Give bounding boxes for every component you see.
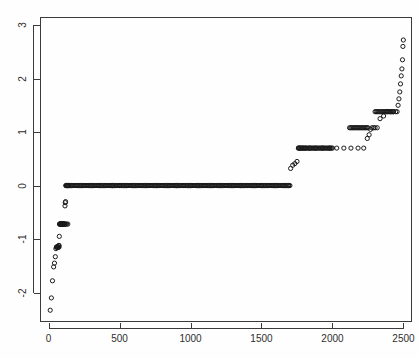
data-point: [50, 279, 54, 283]
y-tick-mark: [34, 239, 40, 240]
data-points-layer: [0, 0, 418, 358]
x-tick-mark: [332, 323, 333, 329]
data-point: [401, 44, 405, 48]
data-point: [398, 82, 402, 86]
data-point: [382, 114, 386, 118]
x-tick-mark: [120, 323, 121, 329]
y-tick-label: 3: [18, 22, 28, 28]
data-point: [362, 146, 366, 150]
data-point: [398, 90, 402, 94]
y-tick-label: 0: [18, 183, 28, 189]
data-point: [57, 234, 61, 238]
y-axis-line: [33, 25, 34, 293]
y-tick-label: -1: [18, 235, 28, 244]
y-tick-label: 1: [18, 129, 28, 135]
data-point: [397, 97, 401, 101]
x-tick-label: 2500: [392, 334, 414, 344]
scatter-plot-figure: 05001000150020002500 -2-10123: [0, 0, 418, 358]
y-tick-mark: [34, 79, 40, 80]
data-point: [48, 308, 52, 312]
y-tick-mark: [34, 186, 40, 187]
y-tick-label: 2: [18, 76, 28, 82]
x-tick-mark: [261, 323, 262, 329]
x-tick-label: 0: [46, 334, 52, 344]
x-tick-label: 500: [111, 334, 128, 344]
x-tick-mark: [49, 323, 50, 329]
data-point: [401, 38, 405, 42]
data-point: [49, 296, 53, 300]
x-tick-label: 1000: [179, 334, 201, 344]
x-axis-line: [49, 328, 404, 329]
data-point: [342, 146, 346, 150]
y-tick-mark: [34, 132, 40, 133]
data-point: [396, 103, 400, 107]
data-point: [400, 67, 404, 71]
y-tick-label: -2: [18, 288, 28, 297]
data-point: [53, 255, 57, 259]
data-point: [356, 146, 360, 150]
y-tick-mark: [34, 293, 40, 294]
x-tick-mark: [403, 323, 404, 329]
x-tick-label: 1500: [250, 334, 272, 344]
data-point: [349, 146, 353, 150]
x-tick-mark: [191, 323, 192, 329]
data-point: [400, 58, 404, 62]
data-point: [335, 146, 339, 150]
data-point: [367, 133, 371, 137]
data-point: [399, 74, 403, 78]
x-tick-label: 2000: [321, 334, 343, 344]
y-tick-mark: [34, 25, 40, 26]
